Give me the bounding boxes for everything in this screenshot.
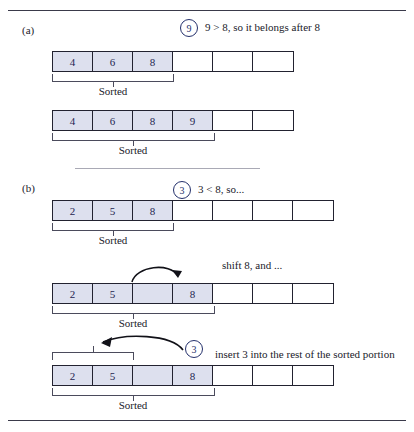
array-a-1: 4 6 8 [52,51,294,72]
note-a: 9 > 8, so it belongs after 8 [205,21,320,33]
sorted-label: Sorted [83,85,143,97]
array-cell [133,284,173,303]
array-cell [293,201,333,220]
part-label-b: (b) [22,182,35,194]
array-cell: 4 [53,111,93,130]
array-cell [213,366,253,385]
top-divider [8,10,406,11]
insertion-sort-figure: (a) 9 9 > 8, so it belongs after 8 4 6 8… [0,0,414,432]
bottom-divider [8,420,406,421]
note-shift: shift 8, and ... [222,259,282,271]
array-cell: 2 [53,366,93,385]
sorted-label: Sorted [103,144,163,156]
array-cell [293,284,333,303]
array-cell [213,111,253,130]
array-cell: 5 [93,284,133,303]
array-cell [253,201,293,220]
array-b-2: 2 5 8 [52,283,334,304]
insert-target-bracket-tick [93,346,94,352]
array-cell [173,201,213,220]
sorted-label: Sorted [103,317,163,329]
array-cell [213,284,253,303]
note-b: 3 < 8, so... [198,183,244,195]
array-cell [173,52,213,71]
array-cell: 2 [53,201,93,220]
array-cell [253,52,293,71]
section-separator [75,168,260,169]
array-cell [213,201,253,220]
array-b-1: 2 5 8 [52,200,334,221]
sorted-label: Sorted [83,234,143,246]
array-cell: 9 [173,111,213,130]
array-cell: 5 [93,366,133,385]
array-cell [253,111,293,130]
array-cell: 8 [173,366,213,385]
array-cell: 8 [133,52,173,71]
array-cell [213,52,253,71]
array-a-2: 4 6 8 9 [52,110,294,131]
array-cell: 2 [53,284,93,303]
badge-value-a: 9 [180,19,198,37]
array-cell: 8 [133,111,173,130]
array-cell: 8 [173,284,213,303]
badge-value-insert: 3 [185,340,203,358]
array-cell: 4 [53,52,93,71]
array-cell: 6 [93,52,133,71]
array-cell [293,366,333,385]
badge-value-b: 3 [173,181,191,199]
part-label-a: (a) [22,24,34,36]
array-cell [133,366,173,385]
array-cell: 8 [133,201,173,220]
array-cell [253,284,293,303]
note-insert: insert 3 into the rest of the sorted por… [215,348,395,360]
array-cell: 6 [93,111,133,130]
array-cell [253,366,293,385]
array-cell: 5 [93,201,133,220]
sorted-label: Sorted [103,399,163,411]
insert-target-bracket [52,352,134,360]
array-b-3: 2 5 8 [52,365,334,386]
